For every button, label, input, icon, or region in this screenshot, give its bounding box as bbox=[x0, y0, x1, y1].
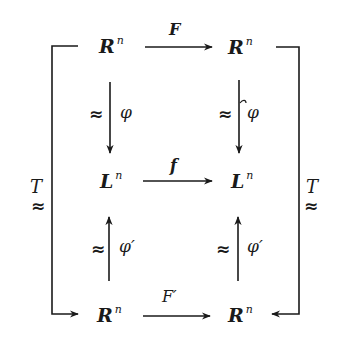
iso-T-left: ≈ bbox=[31, 198, 45, 215]
label-phi-left: φ bbox=[120, 104, 132, 121]
node-bot-left: Rn bbox=[97, 306, 122, 325]
node-base: L bbox=[100, 170, 113, 192]
node-base: R bbox=[99, 35, 115, 57]
arrow-T-right bbox=[272, 47, 299, 314]
label-T-right: T bbox=[306, 178, 318, 196]
node-sup: n bbox=[115, 169, 122, 182]
label-T-left: T bbox=[30, 178, 42, 196]
label-phi-prime-right: φ′ bbox=[247, 238, 263, 255]
node-base: R bbox=[97, 304, 113, 326]
node-sup: n bbox=[117, 34, 124, 47]
label-F: F bbox=[169, 22, 180, 38]
node-sup: n bbox=[115, 303, 122, 316]
arrow-T-left bbox=[52, 46, 78, 314]
iso-left-down: ≈ bbox=[89, 106, 103, 123]
node-mid-left: Ln bbox=[100, 172, 122, 191]
node-sup: n bbox=[246, 169, 253, 182]
node-top-right: Rn bbox=[228, 38, 253, 57]
label-phi-right: φ bbox=[247, 104, 259, 121]
hook-mark bbox=[240, 100, 246, 103]
node-sup: n bbox=[246, 303, 253, 316]
iso-right-down: ≈ bbox=[218, 106, 232, 123]
node-bot-right: Rn bbox=[228, 306, 253, 325]
node-mid-right: Ln bbox=[231, 172, 253, 191]
label-phi-prime-left: φ′ bbox=[119, 238, 135, 255]
label-F-prime: F′ bbox=[162, 289, 177, 305]
node-base: R bbox=[228, 304, 244, 326]
label-f: f bbox=[170, 158, 177, 174]
node-top-left: Rn bbox=[99, 37, 124, 56]
node-base: R bbox=[228, 36, 244, 58]
iso-right-up: ≈ bbox=[216, 241, 230, 258]
iso-T-right: ≈ bbox=[304, 198, 318, 215]
iso-left-up: ≈ bbox=[91, 241, 105, 258]
node-base: L bbox=[231, 170, 244, 192]
node-sup: n bbox=[246, 35, 253, 48]
